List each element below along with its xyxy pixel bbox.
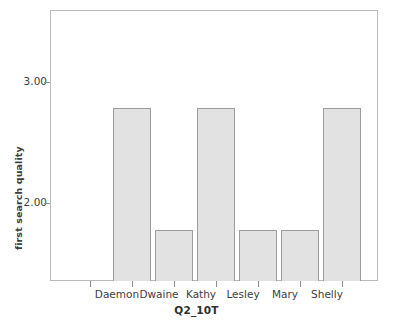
x-tick-mark-2 [174, 281, 175, 287]
x-tick-mark-3 [216, 281, 217, 287]
x-tick-mark-1 [132, 281, 133, 287]
bar-lesley[interactable] [239, 230, 277, 281]
bars-layer [50, 10, 378, 281]
x-axis-title: Q2_10T [0, 304, 393, 316]
bar-daemon[interactable] [113, 108, 151, 281]
x-tick-mark-0 [90, 281, 91, 287]
x-tick-mark-4 [258, 281, 259, 287]
bar-kathy[interactable] [197, 108, 235, 281]
y-tick-label-2: 2.00 [1, 197, 47, 208]
bar-chart: first search quality 2.00 3.00 Daemon Dw… [0, 0, 393, 324]
y-tick-label-3: 3.00 [1, 76, 47, 87]
x-tick-mark-5 [300, 281, 301, 287]
x-category-label-shelly: Shelly [302, 288, 352, 300]
bar-mary[interactable] [281, 230, 319, 281]
bar-dwaine[interactable] [155, 230, 193, 281]
bar-shelly[interactable] [323, 108, 361, 281]
x-tick-mark-6 [342, 281, 343, 287]
